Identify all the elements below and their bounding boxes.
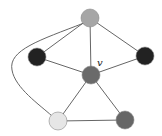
edge-bottom <box>58 120 125 121</box>
edge-top-right <box>90 18 145 56</box>
node-bottom-right <box>116 111 134 129</box>
node-v-label: v <box>97 57 103 68</box>
node-right <box>136 47 154 65</box>
node-bottom-left <box>49 112 67 130</box>
graph-diagram: v <box>0 0 162 136</box>
node-top <box>81 9 99 27</box>
node-v <box>82 66 100 84</box>
node-left <box>28 48 46 66</box>
